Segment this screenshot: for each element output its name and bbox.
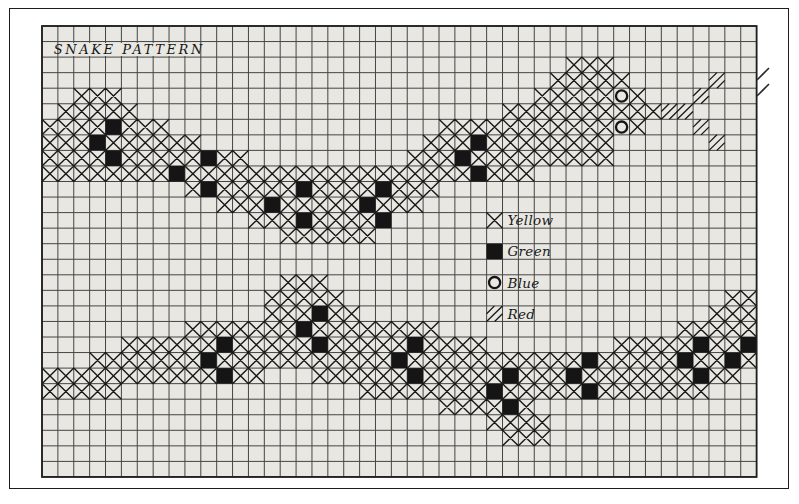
pattern-chart xyxy=(0,0,799,504)
chart-title: SNAKE PATTERN xyxy=(59,43,200,57)
legend-label-green: Green xyxy=(508,242,551,260)
pattern-page: SNAKE PATTERN Yellow Green Blue Red xyxy=(0,0,799,504)
legend-label-red: Red xyxy=(508,305,536,323)
legend-label-yellow: Yellow xyxy=(508,211,554,229)
legend-label-blue: Blue xyxy=(508,274,540,292)
